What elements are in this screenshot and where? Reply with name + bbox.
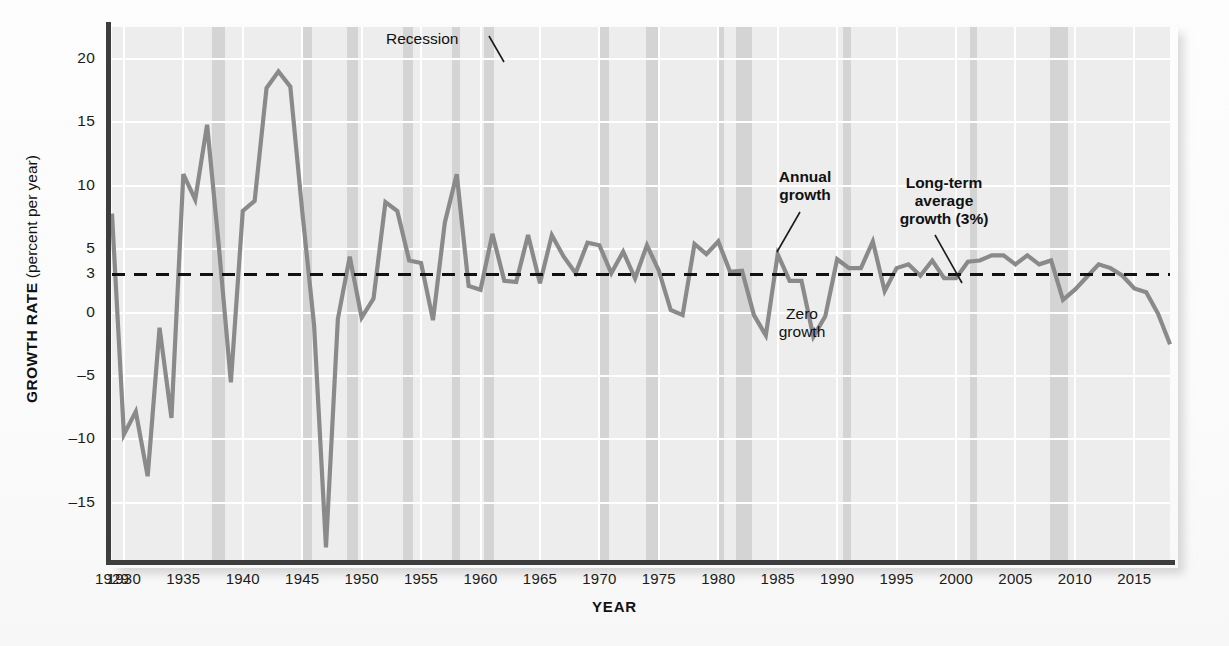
x-tick-label: 1935 — [160, 570, 206, 587]
annotation-annual-growth-line1: Annual — [779, 168, 832, 185]
x-tick-label: 1940 — [220, 570, 266, 587]
annotation-annual-growth: Annualgrowth — [752, 168, 858, 204]
y-tick-label: 3 — [0, 264, 95, 282]
x-tick-label: 1960 — [458, 570, 504, 587]
x-axis-title: YEAR — [0, 598, 1229, 615]
annotation-longterm-average: Long-termaveragegrowth (3%) — [872, 174, 1016, 228]
y-axis-line — [106, 22, 111, 565]
y-tick-label: –10 — [0, 429, 95, 447]
x-tick-label: 2010 — [1052, 570, 1098, 587]
x-tick-label: 2015 — [1111, 570, 1157, 587]
annotation-annual-growth-line2: growth — [779, 186, 831, 203]
y-axis-title-plain: (percent per year) — [23, 155, 40, 283]
x-tick-label: 1970 — [576, 570, 622, 587]
annual-growth-line — [112, 71, 1170, 547]
annotation-zero-line1: Zero — [786, 305, 818, 322]
x-tick-label: 1930 — [101, 570, 147, 587]
y-tick-label: –15 — [0, 493, 95, 511]
y-tick-label: –5 — [0, 366, 95, 384]
y-axis-title-bold: GROWTH RATE — [23, 283, 40, 403]
annotation-longterm-line2: average — [915, 192, 974, 209]
x-tick-label: 1955 — [398, 570, 444, 587]
x-tick-label: 1985 — [755, 570, 801, 587]
y-tick-label: 15 — [0, 112, 95, 130]
annotation-longterm-line3: growth (3%) — [900, 210, 989, 227]
x-tick-label: 2000 — [933, 570, 979, 587]
plot-area — [112, 27, 1170, 560]
annotation-zero-line2: growth — [779, 323, 826, 340]
y-tick-label: 20 — [0, 49, 95, 67]
x-tick-label: 2005 — [992, 570, 1038, 587]
x-tick-label: 1945 — [279, 570, 325, 587]
x-tick-label: 1980 — [695, 570, 741, 587]
x-tick-label: 1950 — [339, 570, 385, 587]
x-tick-label: 1995 — [874, 570, 920, 587]
x-tick-label: 1965 — [517, 570, 563, 587]
x-axis-line — [106, 560, 1175, 565]
y-tick-label: 5 — [0, 239, 95, 257]
x-tick-label: 1990 — [814, 570, 860, 587]
y-axis-title: GROWTH RATE (percent per year) — [23, 0, 41, 559]
annotation-longterm-line1: Long-term — [906, 174, 983, 191]
annotation-zero-growth: Zerogrowth — [756, 305, 848, 341]
annotation-recession: Recession — [386, 30, 506, 48]
y-tick-label: 0 — [0, 303, 95, 321]
y-tick-label: 10 — [0, 176, 95, 194]
x-tick-label: 1975 — [636, 570, 682, 587]
growth-rate-chart-figure: 201510530–5–10–15 1929193019351940194519… — [0, 0, 1229, 646]
data-series-layer — [112, 27, 1170, 560]
